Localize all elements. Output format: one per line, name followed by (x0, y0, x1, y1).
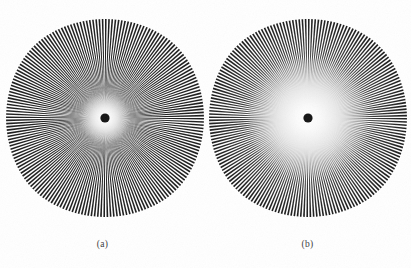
figure-container: (a) (b) (0, 0, 411, 268)
figure-panel-a: (a) (0, 0, 205, 238)
panel-b-caption: (b) (205, 239, 410, 249)
center-hub-dot (100, 113, 109, 122)
figure-panel-b: (b) (205, 0, 410, 238)
center-hub-dot (303, 113, 312, 122)
siemens-star-a (0, 0, 205, 238)
panel-a-caption: (a) (0, 239, 205, 249)
siemens-star-b (205, 0, 411, 238)
